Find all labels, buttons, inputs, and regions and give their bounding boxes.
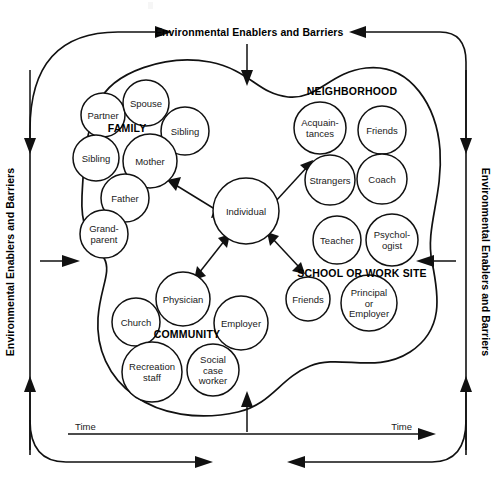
node-label: or <box>365 298 373 309</box>
diagram-canvas: PartnerSpouseSiblingSiblingMotherFatherG… <box>0 0 493 484</box>
node-label: Church <box>121 317 152 328</box>
node-label: Grand- <box>89 223 119 234</box>
env-arrow-bottom-head <box>241 391 253 407</box>
node-label: ogist <box>382 240 402 251</box>
connector-individual-neighborhood <box>275 166 308 202</box>
node-neighborhood-0[interactable]: Acquain-tances <box>294 102 346 154</box>
node-label: tances <box>306 128 334 139</box>
time-label-left: Time <box>75 421 96 432</box>
node-label: Friends <box>366 125 398 136</box>
env-label-top: Environmental Enablers and Barriers <box>155 26 344 38</box>
group-heading-family: FAMILY <box>108 122 147 134</box>
time-label-right: Time <box>391 421 412 432</box>
node-community-2[interactable]: Employer <box>214 296 268 350</box>
node-individual[interactable]: Individual <box>213 178 279 244</box>
env-label-right: Environmental Enablers and Barriers <box>480 168 492 357</box>
env-right-down-head <box>460 138 472 154</box>
connector-individual-family <box>174 184 218 211</box>
node-label: Social <box>200 354 226 365</box>
node-neighborhood-2[interactable]: Strangers <box>305 155 355 205</box>
time-axis-arrow-head <box>418 428 436 440</box>
node-label: Coach <box>368 174 395 185</box>
node-neighborhood-3[interactable]: Coach <box>357 154 407 204</box>
connector-individual-school <box>272 238 299 267</box>
node-label: staff <box>143 372 161 383</box>
env-label-left: Environmental Enablers and Barriers <box>4 168 16 357</box>
node-family-1[interactable]: Spouse <box>123 80 169 126</box>
node-school-or-work-site-1[interactable]: Psychol-ogist <box>366 214 418 266</box>
env-arrow-bottom-right-head <box>287 456 305 468</box>
node-label: Principal <box>351 287 387 298</box>
env-left-up-head <box>24 376 36 392</box>
connector-individual-community <box>199 240 225 273</box>
node-school-or-work-site-3[interactable]: PrincipalorEmployer <box>341 275 397 331</box>
node-community-4[interactable]: Socialcaseworker <box>187 344 239 396</box>
node-label: Teacher <box>320 235 354 246</box>
node-label: Psychol- <box>374 229 410 240</box>
node-label: Recreation <box>129 361 175 372</box>
node-community-3[interactable]: Recreationstaff <box>122 342 182 402</box>
env-left-down-head <box>24 138 36 154</box>
node-label: Friends <box>292 294 324 305</box>
node-label: parent <box>91 234 118 245</box>
node-family-6[interactable]: Grand-parent <box>80 210 128 258</box>
node-label: Sibling <box>82 153 111 164</box>
group-heading-community: COMMUNITY <box>154 328 221 340</box>
node-label: Employer <box>221 318 261 329</box>
time-axis <box>68 428 436 440</box>
node-label: Physician <box>163 294 204 305</box>
node-label: case <box>203 365 223 376</box>
group-heading-school-or-work-site: SCHOOL OR WORK SITE <box>297 267 427 279</box>
individual-label: Individual <box>226 206 266 217</box>
social-environment-diagram: PartnerSpouseSiblingSiblingMotherFatherG… <box>0 0 493 484</box>
node-label: Acquain- <box>301 117 339 128</box>
node-family-3[interactable]: Sibling <box>73 135 119 181</box>
node-label: Spouse <box>130 98 162 109</box>
node-neighborhood-1[interactable]: Friends <box>358 106 406 154</box>
env-loop-bottom-right-path <box>305 420 466 462</box>
env-arrow-bottom-left-head <box>195 456 213 468</box>
node-community-0[interactable]: Physician <box>156 272 210 326</box>
node-label: Sibling <box>171 126 200 137</box>
node-school-or-work-site-0[interactable]: Teacher <box>313 216 361 264</box>
env-arrow-top-right-head <box>349 26 366 38</box>
node-label: Partner <box>87 110 118 121</box>
node-label: Father <box>111 193 138 204</box>
node-label: worker <box>198 375 228 386</box>
node-school-or-work-site-2[interactable]: Friends <box>286 277 330 321</box>
node-label: Mother <box>135 156 165 167</box>
env-loop-bottom-left-path <box>30 420 195 462</box>
group-heading-neighborhood: NEIGHBORHOOD <box>307 85 398 97</box>
env-right-up-head <box>460 376 472 392</box>
node-label: Strangers <box>309 175 350 186</box>
env-left-inward-head <box>62 255 80 267</box>
node-label: Employer <box>349 308 389 319</box>
